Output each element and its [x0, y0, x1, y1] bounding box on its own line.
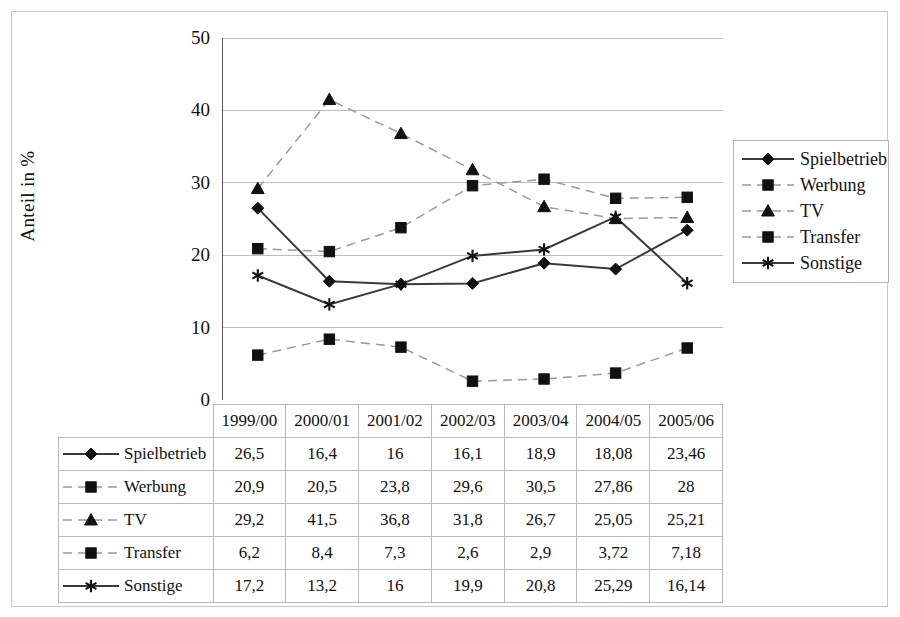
- table-tv-key: [61, 512, 121, 528]
- table-transfer-key: [61, 545, 121, 561]
- legend-item-transfer[interactable]: Transfer: [734, 224, 888, 250]
- table-cell: 20,9: [213, 471, 286, 504]
- table-row-header-transfer: Transfer: [59, 537, 214, 570]
- legend-key-spielbetrieb: [740, 151, 796, 167]
- datapoint-tv-2003/04: [538, 200, 551, 211]
- table-key-transfer: [61, 545, 121, 561]
- series-markers-werbung: [253, 174, 693, 257]
- table-cell: 7,3: [359, 537, 432, 570]
- table-cell: 8,4: [286, 537, 359, 570]
- plot-area: [222, 38, 723, 400]
- table-cell: 18,08: [577, 438, 650, 471]
- legend-item-sonstige[interactable]: Sonstige: [734, 250, 888, 276]
- marker-square: [324, 334, 334, 344]
- table-cell: 16,14: [650, 570, 723, 603]
- table-transfer-key-marker: [86, 548, 96, 558]
- datapoint-spielbetrieb-2003/04: [538, 257, 550, 269]
- datapoint-tv-2005/06: [681, 211, 694, 222]
- legend-label-transfer: Transfer: [800, 227, 860, 248]
- row-header-content: Sonstige: [59, 570, 213, 602]
- series-line-transfer: [258, 339, 687, 381]
- table-key-sonstige: [61, 578, 121, 594]
- table-cell: 23,8: [359, 471, 432, 504]
- legend-label-werbung: Werbung: [800, 175, 866, 196]
- table-body: Spielbetrieb26,516,41616,118,918,0823,46…: [59, 438, 723, 603]
- marker-square: [763, 180, 773, 190]
- legend-item-spielbetrieb[interactable]: Spielbetrieb: [734, 146, 888, 172]
- datapoint-werbung-2000/01: [324, 246, 334, 256]
- datapoint-werbung-2001/02: [396, 222, 406, 232]
- datapoint-transfer-2003/04: [539, 374, 549, 384]
- marker-triangle: [323, 93, 336, 104]
- legend-spielbetrieb-key-marker: [762, 153, 774, 165]
- y-axis-title: Anteil in %: [17, 116, 39, 276]
- datapoint-werbung-2004/05: [610, 193, 620, 203]
- table-header-row: 1999/002000/012001/022002/032003/042004/…: [59, 405, 723, 438]
- y-tick-label-20: 20: [170, 245, 210, 264]
- datapoint-transfer-2001/02: [396, 342, 406, 352]
- marker-square: [467, 376, 477, 386]
- marker-square: [324, 246, 334, 256]
- marker-diamond: [467, 277, 479, 289]
- marker-square: [610, 193, 620, 203]
- legend-key-tv: [740, 203, 796, 219]
- legend-item-tv[interactable]: TV: [734, 198, 888, 224]
- table-row: TV29,241,536,831,826,725,0525,21: [59, 504, 723, 537]
- legend-label-tv: TV: [800, 201, 824, 222]
- marker-diamond: [538, 257, 550, 269]
- table-row: Spielbetrieb26,516,41616,118,918,0823,46: [59, 438, 723, 471]
- datapoint-transfer-2005/06: [682, 343, 692, 353]
- table-cell: 19,9: [431, 570, 504, 603]
- table-cell: 41,5: [286, 504, 359, 537]
- table-spielbetrieb-key: [61, 446, 121, 462]
- table-cell: 16,1: [431, 438, 504, 471]
- datapoint-transfer-2000/01: [324, 334, 334, 344]
- series-markers-spielbetrieb: [252, 202, 693, 290]
- legend-sonstige-key: [740, 255, 796, 271]
- table-cell: 25,05: [577, 504, 650, 537]
- table-cell: 26,5: [213, 438, 286, 471]
- legend-transfer-key-marker: [763, 232, 773, 242]
- marker-square: [539, 174, 549, 184]
- table-col-header-2001-02: 2001/02: [359, 405, 432, 438]
- row-header-content: Spielbetrieb: [59, 438, 213, 470]
- table-cell: 3,72: [577, 537, 650, 570]
- table-werbung-key: [61, 479, 121, 495]
- table-cell: 29,2: [213, 504, 286, 537]
- legend-item-werbung[interactable]: Werbung: [734, 172, 888, 198]
- datapoint-spielbetrieb-2005/06: [681, 224, 693, 236]
- table-cell: 16: [359, 438, 432, 471]
- series-line-spielbetrieb: [258, 208, 687, 284]
- table-row-label-sonstige: Sonstige: [124, 576, 183, 596]
- datapoint-transfer-1999/00: [253, 350, 263, 360]
- datapoint-transfer-2004/05: [610, 368, 620, 378]
- table-cell: 13,2: [286, 570, 359, 603]
- datapoint-tv-2002/03: [466, 163, 479, 174]
- datapoint-werbung-2003/04: [539, 174, 549, 184]
- table-row: Werbung20,920,523,829,630,527,8628: [59, 471, 723, 504]
- table-cell: 20,8: [504, 570, 577, 603]
- legend-key-werbung: [740, 177, 796, 193]
- marker-triangle: [681, 211, 694, 222]
- table-cell: 17,2: [213, 570, 286, 603]
- marker-square: [467, 180, 477, 190]
- table-row-label-tv: TV: [124, 510, 147, 530]
- marker-square: [253, 350, 263, 360]
- table-cell: 20,5: [286, 471, 359, 504]
- chart-page: Anteil in % 01020304050 SpielbetriebWerb…: [0, 0, 900, 617]
- table-col-header-2002-03: 2002/03: [431, 405, 504, 438]
- marker-square: [763, 232, 773, 242]
- table-cell: 25,21: [650, 504, 723, 537]
- table-cell: 23,46: [650, 438, 723, 471]
- table-cell: 2,9: [504, 537, 577, 570]
- table-cell: 6,2: [213, 537, 286, 570]
- table-cell: 25,29: [577, 570, 650, 603]
- marker-square: [253, 243, 263, 253]
- table-cell: 28: [650, 471, 723, 504]
- table-row-header-tv: TV: [59, 504, 214, 537]
- table-cell: 36,8: [359, 504, 432, 537]
- table-cell: 18,9: [504, 438, 577, 471]
- table-cell: 27,86: [577, 471, 650, 504]
- table-key-werbung: [61, 479, 121, 495]
- legend-spielbetrieb-key: [740, 151, 796, 167]
